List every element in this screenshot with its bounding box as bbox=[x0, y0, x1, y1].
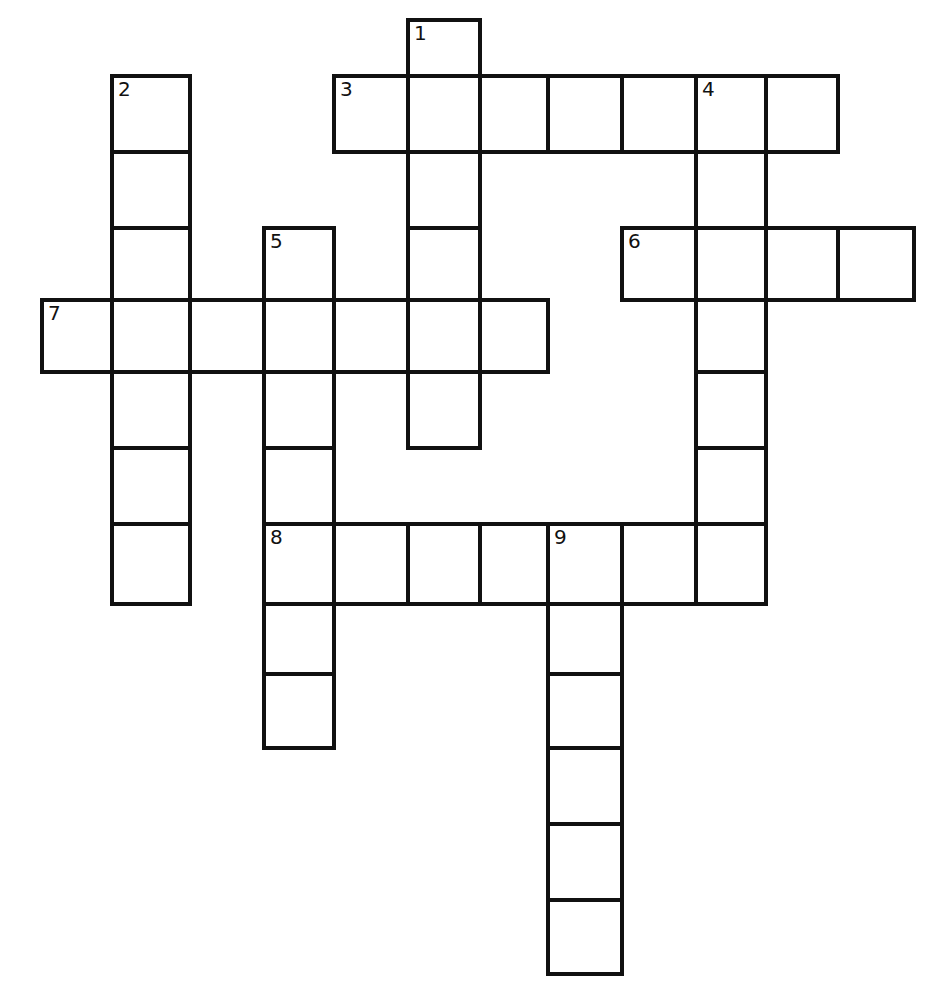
grid-cell[interactable] bbox=[110, 522, 192, 606]
grid-cell[interactable] bbox=[262, 298, 336, 374]
grid-cell[interactable] bbox=[188, 298, 266, 374]
letter-input[interactable] bbox=[410, 78, 478, 150]
letter-input[interactable] bbox=[550, 526, 620, 602]
letter-input[interactable] bbox=[266, 374, 332, 446]
letter-input[interactable] bbox=[266, 230, 332, 298]
letter-input[interactable] bbox=[266, 302, 332, 370]
grid-cell[interactable] bbox=[694, 226, 768, 302]
grid-cell[interactable] bbox=[110, 446, 192, 526]
letter-input[interactable] bbox=[768, 230, 836, 298]
grid-cell[interactable]: 2 bbox=[110, 74, 192, 154]
grid-cell[interactable] bbox=[406, 150, 482, 230]
grid-cell[interactable] bbox=[694, 150, 768, 230]
letter-input[interactable] bbox=[410, 302, 478, 370]
letter-input[interactable] bbox=[768, 78, 836, 150]
letter-input[interactable] bbox=[550, 676, 620, 746]
letter-input[interactable] bbox=[550, 78, 620, 150]
letter-input[interactable] bbox=[114, 526, 188, 602]
letter-input[interactable] bbox=[624, 230, 694, 298]
grid-cell[interactable] bbox=[546, 74, 624, 154]
grid-cell[interactable] bbox=[546, 602, 624, 676]
grid-cell[interactable] bbox=[546, 746, 624, 826]
letter-input[interactable] bbox=[550, 750, 620, 822]
grid-cell[interactable] bbox=[694, 446, 768, 526]
grid-cell[interactable] bbox=[478, 298, 550, 374]
letter-input[interactable] bbox=[114, 154, 188, 226]
grid-cell[interactable] bbox=[406, 370, 482, 450]
letter-input[interactable] bbox=[336, 526, 406, 602]
grid-cell[interactable] bbox=[262, 602, 336, 676]
grid-cell[interactable] bbox=[262, 370, 336, 450]
letter-input[interactable] bbox=[192, 302, 262, 370]
letter-input[interactable] bbox=[266, 676, 332, 746]
letter-input[interactable] bbox=[698, 374, 764, 446]
letter-input[interactable] bbox=[410, 154, 478, 226]
letter-input[interactable] bbox=[114, 78, 188, 150]
grid-cell[interactable]: 3 bbox=[332, 74, 410, 154]
letter-input[interactable] bbox=[698, 230, 764, 298]
grid-cell[interactable] bbox=[836, 226, 916, 302]
crossword-grid: 123458679 bbox=[0, 0, 943, 991]
letter-input[interactable] bbox=[550, 902, 620, 972]
grid-cell[interactable]: 5 bbox=[262, 226, 336, 302]
letter-input[interactable] bbox=[336, 78, 406, 150]
letter-input[interactable] bbox=[114, 230, 188, 298]
letter-input[interactable] bbox=[482, 78, 546, 150]
letter-input[interactable] bbox=[114, 302, 188, 370]
grid-cell[interactable]: 6 bbox=[620, 226, 698, 302]
grid-cell[interactable] bbox=[478, 74, 550, 154]
grid-cell[interactable] bbox=[478, 522, 550, 606]
grid-cell[interactable]: 4 bbox=[694, 74, 768, 154]
letter-input[interactable] bbox=[698, 78, 764, 150]
grid-cell[interactable] bbox=[546, 672, 624, 750]
letter-input[interactable] bbox=[698, 450, 764, 522]
letter-input[interactable] bbox=[482, 302, 546, 370]
grid-cell[interactable] bbox=[546, 898, 624, 976]
grid-cell[interactable] bbox=[110, 226, 192, 302]
grid-cell[interactable]: 7 bbox=[40, 298, 114, 374]
grid-cell[interactable] bbox=[110, 370, 192, 450]
letter-input[interactable] bbox=[336, 302, 406, 370]
letter-input[interactable] bbox=[550, 826, 620, 898]
letter-input[interactable] bbox=[840, 230, 912, 298]
grid-cell[interactable]: 1 bbox=[406, 18, 482, 78]
grid-cell[interactable] bbox=[262, 446, 336, 526]
grid-cell[interactable] bbox=[262, 672, 336, 750]
letter-input[interactable] bbox=[410, 526, 478, 602]
letter-input[interactable] bbox=[624, 78, 694, 150]
grid-cell[interactable] bbox=[694, 298, 768, 374]
letter-input[interactable] bbox=[266, 606, 332, 672]
letter-input[interactable] bbox=[698, 154, 764, 226]
grid-cell[interactable] bbox=[694, 522, 768, 606]
letter-input[interactable] bbox=[698, 302, 764, 370]
grid-cell[interactable] bbox=[764, 74, 840, 154]
grid-cell[interactable] bbox=[764, 226, 840, 302]
grid-cell[interactable] bbox=[620, 522, 698, 606]
letter-input[interactable] bbox=[410, 22, 478, 74]
letter-input[interactable] bbox=[44, 302, 110, 370]
letter-input[interactable] bbox=[482, 526, 546, 602]
grid-cell[interactable] bbox=[546, 822, 624, 902]
grid-cell[interactable] bbox=[332, 522, 410, 606]
grid-cell[interactable] bbox=[406, 226, 482, 302]
grid-cell[interactable] bbox=[110, 298, 192, 374]
grid-cell[interactable] bbox=[110, 150, 192, 230]
grid-cell[interactable] bbox=[694, 370, 768, 450]
grid-cell[interactable] bbox=[406, 74, 482, 154]
letter-input[interactable] bbox=[410, 230, 478, 298]
grid-cell[interactable] bbox=[406, 298, 482, 374]
letter-input[interactable] bbox=[114, 450, 188, 522]
grid-cell[interactable] bbox=[406, 522, 482, 606]
letter-input[interactable] bbox=[410, 374, 478, 446]
letter-input[interactable] bbox=[624, 526, 694, 602]
grid-cell[interactable]: 9 bbox=[546, 522, 624, 606]
letter-input[interactable] bbox=[550, 606, 620, 672]
grid-cell[interactable] bbox=[620, 74, 698, 154]
grid-cell[interactable] bbox=[332, 298, 410, 374]
grid-cell[interactable]: 8 bbox=[262, 522, 336, 606]
letter-input[interactable] bbox=[114, 374, 188, 446]
letter-input[interactable] bbox=[266, 526, 332, 602]
letter-input[interactable] bbox=[698, 526, 764, 602]
letter-input[interactable] bbox=[266, 450, 332, 522]
